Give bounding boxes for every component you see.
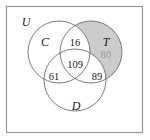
region-value-c-and-t: 16 bbox=[70, 37, 81, 48]
region-value-c-and-d: 61 bbox=[49, 71, 60, 82]
venn-diagram-figure: U C T D 16 80 109 61 89 bbox=[0, 0, 150, 140]
universe-label: U bbox=[22, 15, 32, 29]
venn-diagram-svg: U C T D 16 80 109 61 89 bbox=[0, 0, 150, 140]
region-value-c-t-d: 109 bbox=[67, 59, 83, 70]
set-label-d: D bbox=[71, 99, 81, 113]
set-label-c: C bbox=[41, 35, 50, 49]
region-value-t-only: 80 bbox=[101, 49, 112, 60]
region-value-t-and-d: 89 bbox=[92, 71, 103, 82]
